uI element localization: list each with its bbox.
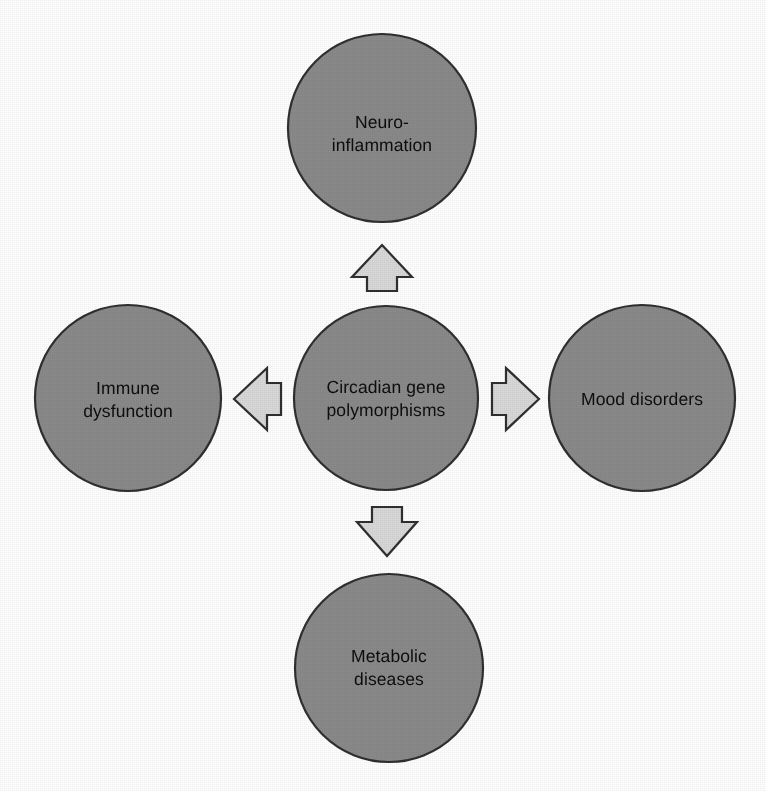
concept-map-svg [0,0,766,791]
arrow-up-icon [352,245,412,291]
diagram-canvas: Neuro- inflammation Immune dysfunction C… [0,0,766,791]
node-circle-left [35,305,221,491]
arrow-left-icon [234,368,281,430]
node-circle-right [549,305,735,491]
node-circle-bottom [295,574,483,762]
arrow-down-icon [357,507,417,556]
node-circle-center [294,306,478,490]
node-circle-top [288,34,476,222]
arrow-right-icon [492,368,539,430]
